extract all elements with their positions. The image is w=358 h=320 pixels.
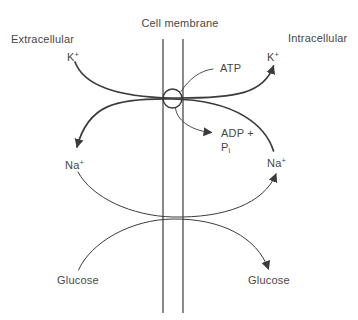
charge-superscript: + — [75, 50, 79, 59]
cell-membrane-label: Cell membrane — [141, 17, 218, 29]
sodium-pump-arrow — [77, 99, 274, 151]
adp-label: ADP + — [221, 127, 254, 139]
intracellular-label: Intracellular — [288, 32, 347, 44]
adp-release-arrow — [176, 108, 212, 133]
sodium-symbol: Na — [267, 157, 281, 169]
atp-connector-line — [181, 69, 213, 92]
glucose-transport-arrow — [79, 219, 269, 270]
phosphate-subscript: i — [229, 146, 231, 155]
sodium-label-intracellular: Na+ — [267, 155, 286, 169]
potassium-symbol: K — [267, 51, 275, 63]
glucose-label-extracellular: Glucose — [57, 274, 99, 286]
glucose-label-intracellular: Glucose — [248, 274, 290, 286]
phosphate-symbol: P — [221, 141, 229, 153]
extracellular-label: Extracellular — [11, 33, 74, 45]
charge-superscript: + — [281, 156, 285, 165]
sodium-label-extracellular: Na+ — [65, 157, 84, 171]
potassium-label-intracellular: K+ — [267, 49, 279, 63]
charge-superscript: + — [275, 50, 279, 59]
phosphate-label: Pi — [221, 141, 230, 157]
potassium-transport-arrow — [75, 62, 274, 98]
atp-label: ATP — [220, 62, 241, 74]
potassium-label-extracellular: K+ — [67, 49, 79, 63]
membrane-transport-diagram: Cell membrane Extracellular Intracellula… — [0, 0, 358, 320]
sodium-symport-arrow — [78, 172, 276, 217]
charge-superscript: + — [79, 158, 83, 167]
potassium-symbol: K — [67, 51, 75, 63]
diagram-canvas — [0, 0, 358, 320]
sodium-symbol: Na — [65, 159, 79, 171]
